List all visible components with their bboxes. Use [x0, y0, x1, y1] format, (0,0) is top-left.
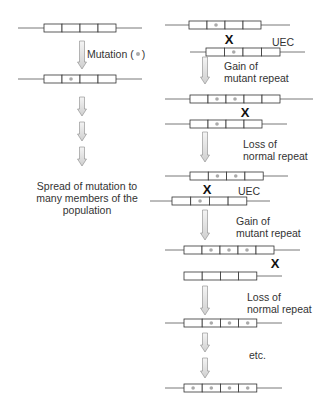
- repeat-unit: [244, 95, 262, 103]
- down-arrow-icon: [78, 97, 87, 116]
- crossover-x-icon: X: [203, 182, 212, 197]
- loss-label-2: Loss of normal repeat: [247, 291, 312, 315]
- repeat-array-L1: [18, 24, 142, 32]
- loss-label-1: Loss of normal repeat: [243, 138, 308, 162]
- down-arrow-icon: [201, 210, 210, 240]
- mutation-dot-icon: [233, 97, 237, 101]
- repeat-unit: [202, 272, 220, 280]
- repeat-unit: [228, 197, 247, 205]
- repeat-unit: [190, 172, 208, 180]
- repeat-unit: [256, 246, 274, 254]
- mutation-dot-icon: [215, 122, 219, 126]
- repeat-array-R8: [184, 272, 282, 280]
- crossover-x-icon: X: [225, 32, 234, 47]
- repeat-array-R2: [190, 48, 305, 56]
- mutation-dot-icon: [136, 52, 140, 56]
- mutation-dot-icon: [198, 199, 202, 203]
- mutation-dot-icon: [246, 386, 250, 390]
- repeat-unit: [243, 21, 261, 29]
- repeat-unit: [189, 21, 207, 29]
- repeat-array-L2: [18, 75, 142, 83]
- repeat-unit: [206, 48, 225, 56]
- repeat-unit: [80, 75, 98, 83]
- down-arrow-icon: [201, 132, 210, 162]
- repeat-unit: [62, 24, 80, 32]
- repeat-unit: [98, 24, 116, 32]
- repeat-unit: [245, 172, 263, 180]
- mutation-dot-icon: [191, 386, 195, 390]
- repeat-array-R6: [150, 197, 270, 205]
- mutation-dot-icon: [228, 386, 232, 390]
- repeat-unit: [172, 197, 191, 205]
- repeat-unit: [98, 75, 116, 83]
- repeat-unit: [244, 120, 262, 128]
- repeat-array-R1: [165, 21, 290, 29]
- repeat-unit: [262, 48, 281, 56]
- repeat-unit: [220, 272, 238, 280]
- repeat-unit: [239, 272, 257, 280]
- uec-label-1: UEC: [272, 36, 294, 48]
- mutation-dot-icon: [209, 248, 213, 252]
- repeat-unit: [225, 21, 243, 29]
- mutation-dot-icon: [227, 248, 231, 252]
- repeat-unit: [184, 246, 202, 254]
- down-arrow-icon: [78, 41, 87, 69]
- mutation-dot-icon: [246, 321, 250, 325]
- down-arrow-icon: [201, 57, 210, 84]
- mutation-dot-icon: [228, 321, 232, 325]
- mutation-dot-icon: [210, 386, 214, 390]
- repeat-array-R10: [165, 384, 282, 392]
- repeat-unit: [44, 24, 62, 32]
- repeat-array-R3: [165, 95, 313, 103]
- uec-label-2: UEC: [238, 185, 260, 197]
- repeat-unit: [44, 75, 62, 83]
- down-arrow-icon: [201, 358, 210, 378]
- mutation-dot-icon: [216, 174, 220, 178]
- spread-label: Spread of mutation to many members of th…: [20, 180, 154, 216]
- repeat-unit: [243, 48, 262, 56]
- repeat-array-R7: [165, 246, 300, 254]
- mutation-dot-icon: [232, 50, 236, 54]
- repeat-unit: [262, 95, 280, 103]
- repeat-unit: [80, 24, 98, 32]
- down-arrow-icon: [201, 286, 210, 315]
- mutation-dot-icon: [210, 321, 214, 325]
- down-arrow-icon: [201, 333, 210, 352]
- mutation-label: Mutation (): [87, 48, 145, 60]
- mutation-dot-icon: [234, 174, 238, 178]
- mutation-dot-icon: [69, 77, 73, 81]
- repeat-unit: [184, 319, 202, 327]
- mutation-dot-icon: [214, 23, 218, 27]
- repeat-array-R5: [165, 172, 288, 180]
- repeat-unit: [184, 272, 202, 280]
- etc-label: etc.: [249, 349, 266, 361]
- repeat-unit: [226, 120, 244, 128]
- gain-label-2: Gain of mutant repeat: [236, 215, 301, 239]
- repeat-unit: [190, 95, 208, 103]
- crossover-x-icon: X: [241, 105, 250, 120]
- down-arrow-icon: [78, 122, 87, 141]
- repeat-unit: [209, 197, 228, 205]
- repeat-array-R4: [165, 120, 287, 128]
- down-arrow-icon: [78, 147, 87, 166]
- mutation-dot-icon: [245, 248, 249, 252]
- gain-label-1: Gain of mutant repeat: [224, 60, 289, 84]
- mutation-dot-icon: [215, 97, 219, 101]
- crossover-x-icon: X: [271, 256, 280, 271]
- repeat-array-R9: [165, 319, 282, 327]
- repeat-unit: [190, 120, 208, 128]
